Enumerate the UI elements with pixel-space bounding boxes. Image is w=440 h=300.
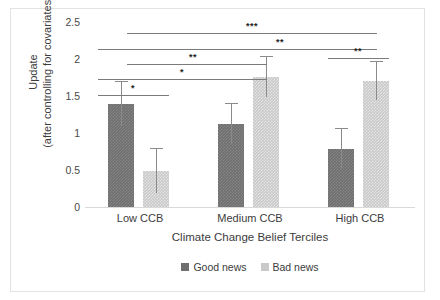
y-axis-title: Update (after controlling for covariates… xyxy=(26,0,66,167)
sig-stars-lowgood-medbad: * xyxy=(162,68,202,77)
chart-legend: Good news Bad news xyxy=(85,261,415,273)
y-tick-0: 0 xyxy=(40,202,80,212)
sig-bracket-lowbad-highbad xyxy=(127,33,377,34)
y-axis-title-line1: Update xyxy=(27,54,39,89)
sig-bracket-lowbad-medbad xyxy=(127,64,267,65)
sig-stars-lowbad-highbad: *** xyxy=(227,22,277,31)
y-axis-title-line2: (after controlling for covariates) xyxy=(41,0,53,148)
bar-chart-figure: 2.5 2 1.5 1 0.5 0 Update (after controll… xyxy=(0,0,440,300)
sig-stars-low-within: * xyxy=(113,84,153,93)
sig-stars-lowbad-medbad: ** xyxy=(173,53,213,62)
x-tick-low-ccb: Low CCB xyxy=(85,212,195,225)
x-axis-baseline xyxy=(85,207,415,208)
legend-item-good-news[interactable]: Good news xyxy=(181,261,246,273)
error-cap-top-medium-ccb-bad-news xyxy=(260,56,273,57)
sig-stars-lowgood-highbad: ** xyxy=(260,38,300,47)
legend-swatch-good-news-icon xyxy=(181,263,189,271)
error-cap-top-high-ccb-bad-news xyxy=(370,61,383,62)
plot-area: *** ** ** * * ** xyxy=(85,22,415,207)
error-cap-top-high-ccb-good-news xyxy=(335,128,348,129)
error-bar-low-ccb-bad-news xyxy=(156,149,157,193)
error-bar-medium-ccb-good-news xyxy=(231,104,232,144)
sig-bracket-lowgood-medbad xyxy=(98,79,267,80)
x-tick-high-ccb: High CCB xyxy=(305,212,415,225)
error-cap-top-medium-ccb-good-news xyxy=(225,103,238,104)
legend-label-bad-news: Bad news xyxy=(273,261,319,273)
x-tick-medium-ccb: Medium CCB xyxy=(195,212,305,225)
legend-item-bad-news[interactable]: Bad news xyxy=(261,261,319,273)
error-bar-high-ccb-good-news xyxy=(341,129,342,169)
sig-bracket-lowgood-highbad xyxy=(98,49,377,50)
error-bar-high-ccb-bad-news xyxy=(376,62,377,100)
x-axis-title: Climate Change Belief Terciles xyxy=(85,231,415,243)
sig-bracket-low-within xyxy=(98,95,169,96)
legend-label-good-news: Good news xyxy=(193,261,246,273)
error-bar-medium-ccb-bad-news xyxy=(266,57,267,97)
sig-stars-high-within: ** xyxy=(338,47,378,56)
sig-bracket-high-within xyxy=(328,58,389,59)
legend-swatch-bad-news-icon xyxy=(261,263,269,271)
error-cap-top-low-ccb-good-news xyxy=(115,81,128,82)
error-cap-top-low-ccb-bad-news xyxy=(150,148,163,149)
